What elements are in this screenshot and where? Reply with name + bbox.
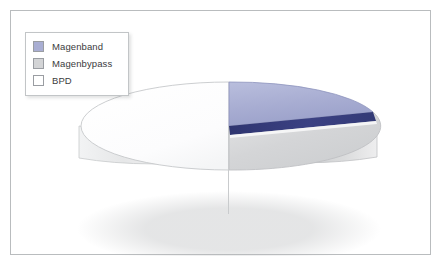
legend-label-magenband: Magenband [52,41,103,52]
legend-item-magenband[interactable]: Magenband [33,38,122,55]
legend-swatch-magenbypass [33,58,44,69]
legend-swatch-magenband [33,41,44,52]
legend-swatch-bpd [33,75,44,86]
figure-caption [12,265,432,277]
legend-label-magenbypass: Magenbypass [52,58,112,69]
figure-pie-chart: Magenband Magenbypass BPD [0,0,443,277]
legend-label-bpd: BPD [52,75,72,86]
chart-frame: Magenband Magenbypass BPD [10,10,431,255]
legend-item-bpd[interactable]: BPD [33,72,122,89]
chart-legend: Magenband Magenbypass BPD [25,32,129,96]
legend-item-magenbypass[interactable]: Magenbypass [33,55,122,72]
